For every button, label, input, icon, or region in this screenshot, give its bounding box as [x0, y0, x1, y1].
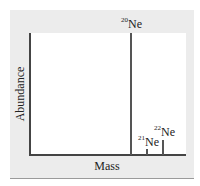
peak-20ne [130, 33, 132, 155]
mass-number: 21 [138, 134, 145, 142]
y-axis-label: Abundance [13, 67, 28, 122]
element-symbol: Ne [128, 17, 142, 31]
peak-22ne [162, 140, 164, 155]
mass-number: 22 [154, 124, 161, 132]
x-axis-label: Mass [94, 159, 119, 174]
y-axis [29, 33, 31, 156]
element-symbol: Ne [161, 125, 175, 139]
peak-label-22ne: 22Ne [154, 126, 175, 138]
mass-number: 20 [121, 16, 128, 24]
peak-label-20ne: 20Ne [121, 18, 142, 30]
peak-21ne [146, 149, 148, 155]
